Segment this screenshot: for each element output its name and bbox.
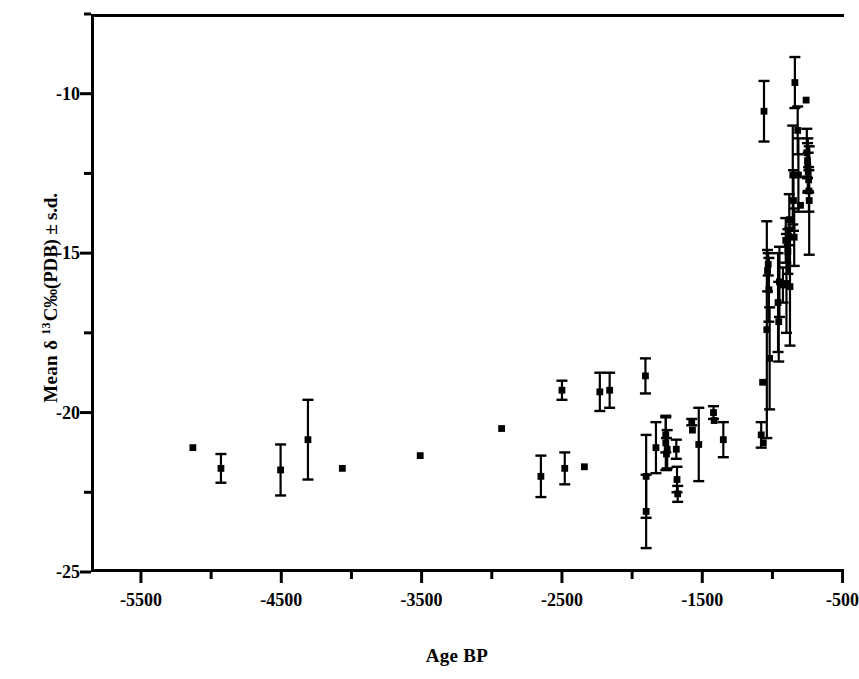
x-tick-label: -500 [826,590,859,611]
y-axis-title: Mean δ 13C‰(PDB) ± s.d. [40,193,62,402]
y-axis-title-suffix: C‰(PDB) ± s.d. [40,193,61,321]
y-axis-title-prefix: Mean δ [40,335,61,403]
y-axis-title-superscript: 13 [39,321,53,335]
x-tick-label: -4500 [260,590,302,611]
x-tick-label: -2500 [541,590,583,611]
x-axis-title: Age BP [0,645,844,667]
x-tick-label: -1500 [681,590,723,611]
x-tick-label: -3500 [401,590,443,611]
plot-area [91,14,844,572]
y-axis-title-wrapper: Mean δ 13C‰(PDB) ± s.d. [40,88,70,508]
y-tick-label: -25 [34,562,80,583]
x-tick-label: -5500 [120,590,162,611]
